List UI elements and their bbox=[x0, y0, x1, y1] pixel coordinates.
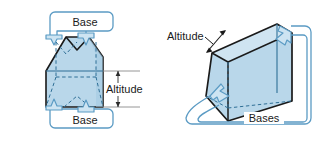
right-altitude-leader bbox=[205, 37, 213, 44]
bases-label: Bases bbox=[249, 112, 280, 124]
right-altitude-arrowhead-upper bbox=[220, 30, 227, 36]
right-altitude-label: Altitude bbox=[167, 30, 204, 42]
left-altitude-arrowhead-bottom bbox=[116, 102, 121, 107]
geometry-figure: Base Base Altitude bbox=[0, 0, 325, 141]
right-altitude-dimension: Altitude bbox=[167, 30, 226, 53]
figure-canvas: Base Base Altitude bbox=[0, 0, 325, 141]
base-bottom-label: Base bbox=[72, 114, 97, 126]
right-altitude-arrowhead-lower bbox=[206, 48, 213, 54]
left-altitude-dimension: Altitude bbox=[103, 71, 151, 107]
base-top-label: Base bbox=[72, 16, 97, 28]
left-altitude-label: Altitude bbox=[106, 83, 143, 95]
left-altitude-arrowhead-top bbox=[116, 71, 121, 76]
left-prism-group: Base Base Altitude bbox=[46, 12, 151, 128]
base-top-arrowhead-left bbox=[46, 35, 62, 45]
right-prism-group: Altitude Bases bbox=[167, 24, 311, 124]
